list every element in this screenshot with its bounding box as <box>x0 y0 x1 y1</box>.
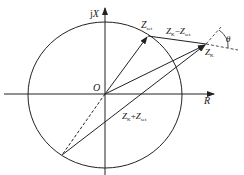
z-sum-line <box>62 45 205 155</box>
z-k-vector <box>105 45 205 94</box>
z-diff-label: ZK−Zset <box>166 26 191 37</box>
z-k-label: ZK <box>205 47 214 58</box>
z-sum-label: ZK+Zset <box>122 111 147 122</box>
impedance-circle-diagram: jX R O Zset ZK−Zset ZK θ ZK+Zset <box>0 0 244 175</box>
neg-z-set-dashed <box>62 94 105 155</box>
theta-ref-line-2 <box>206 27 221 44</box>
theta-ref-line-1 <box>206 44 238 50</box>
z-set-vector <box>105 37 147 94</box>
z-set-label: Zset <box>141 19 153 31</box>
origin-label: O <box>93 82 100 93</box>
z-diff-line <box>148 36 206 44</box>
r-label: R <box>203 95 210 106</box>
jx-label: jX <box>89 8 100 19</box>
theta-label: θ <box>226 34 231 44</box>
